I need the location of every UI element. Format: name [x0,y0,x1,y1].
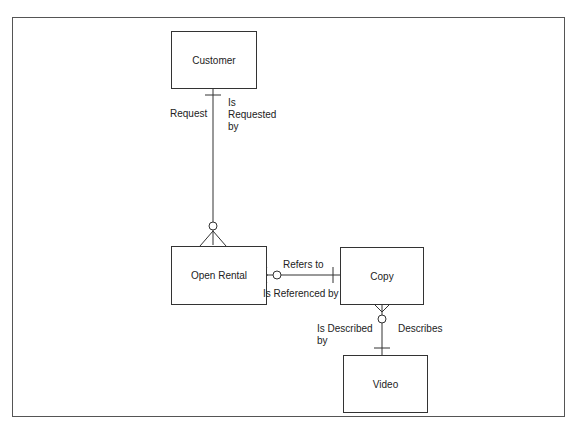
zero-circle-icon [209,222,217,230]
relationship-label-refers-to: Refers to [283,259,324,271]
entity-video[interactable]: Video [343,355,428,413]
zero-circle-icon [378,315,386,323]
crowfoot-icon [375,305,382,312]
relationship-label-is-described-by: Is Described by [317,323,373,347]
entity-copy[interactable]: Copy [340,247,424,305]
relationship-label-is-requested-by: Is Requested by [228,97,276,133]
entity-open-rental[interactable]: Open Rental [171,246,267,305]
crowfoot-icon [200,231,213,246]
entity-label: Customer [192,55,235,66]
relationship-label-is-referenced-by: Is Referenced by [263,288,339,300]
entity-label: Video [373,379,398,390]
zero-circle-icon [273,271,281,279]
entity-label: Open Rental [191,270,247,281]
relationship-label-request: Request [170,108,207,120]
entity-label: Copy [370,271,393,282]
entity-customer[interactable]: Customer [171,31,257,89]
relationship-lines [0,0,578,436]
relationship-label-describes: Describes [398,323,442,335]
